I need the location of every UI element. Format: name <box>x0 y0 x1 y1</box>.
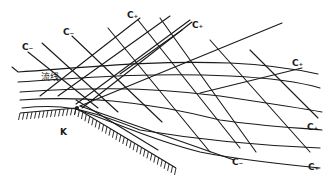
hatch-mark <box>23 113 25 120</box>
c-minus-line <box>210 40 310 152</box>
label-corner-k: K <box>60 127 68 137</box>
label-c-plus: C₊ <box>292 58 304 68</box>
hatch-mark <box>39 111 41 118</box>
hatch-mark <box>143 149 145 156</box>
c-plus-line <box>40 18 140 96</box>
wall-hatching <box>19 108 177 175</box>
c-minus-line <box>72 36 162 122</box>
c-minus-line <box>28 52 98 108</box>
c-plus-line <box>200 68 302 93</box>
hatch-mark <box>119 135 121 142</box>
label-c-plus: C₊ <box>308 162 320 172</box>
streamline-2 <box>18 75 320 88</box>
label-c-plus: C₊ <box>192 20 204 30</box>
hatch-mark <box>81 112 83 119</box>
hatch-mark <box>109 129 111 136</box>
c-minus-line <box>160 18 256 152</box>
c-minus-line <box>80 106 234 160</box>
characteristics-diagram: C₋ C₋ C₊ C₊ C₊ C₊ C₊ C₋ 流线 K <box>0 0 330 180</box>
hatch-mark <box>175 168 177 175</box>
hatch-mark <box>164 162 166 169</box>
label-c-minus: C₋ <box>232 157 244 167</box>
hatch-mark <box>147 151 149 158</box>
label-c-plus: C₊ <box>127 10 139 20</box>
hatch-mark <box>51 110 53 117</box>
c-minus-line <box>138 20 240 148</box>
hatch-mark <box>31 112 33 119</box>
c-minus-line <box>250 50 318 118</box>
hatch-mark <box>88 116 90 123</box>
hatch-mark <box>19 113 21 120</box>
hatch-mark <box>157 158 159 165</box>
hatch-mark <box>106 127 108 134</box>
hatch-mark <box>59 109 61 116</box>
hatch-mark <box>150 154 152 161</box>
c-plus-line <box>58 16 170 96</box>
label-c-minus: C₋ <box>63 27 75 37</box>
hatch-mark <box>27 112 29 119</box>
hatch-mark <box>133 143 135 150</box>
hatch-mark <box>95 120 97 127</box>
label-streamline: 流线 <box>41 71 59 82</box>
hatch-mark <box>85 114 87 121</box>
hatch-mark <box>55 110 57 117</box>
hatch-mark <box>140 147 142 154</box>
hatch-mark <box>102 125 104 132</box>
corner-point <box>75 106 79 110</box>
hatch-mark <box>99 122 101 129</box>
hatch-mark <box>161 160 163 167</box>
hatch-mark <box>47 111 49 118</box>
hatch-mark <box>35 112 37 119</box>
hatch-mark <box>168 164 170 171</box>
hatch-mark <box>123 137 125 144</box>
hatch-mark <box>43 111 45 118</box>
label-c-minus: C₋ <box>22 42 34 52</box>
hatch-mark <box>126 139 128 146</box>
hatch-mark <box>116 133 118 140</box>
hatch-mark <box>67 109 69 116</box>
wall <box>19 108 177 175</box>
label-c-plus: C₊ <box>307 122 319 132</box>
hatch-mark <box>92 118 94 125</box>
hatch-mark <box>154 156 156 163</box>
hatch-mark <box>137 145 139 152</box>
hatch-mark <box>71 108 73 115</box>
c-minus-line <box>76 100 158 150</box>
hatch-mark <box>130 141 132 148</box>
hatch-mark <box>78 110 80 117</box>
hatch-mark <box>171 166 173 173</box>
hatch-mark <box>112 131 114 138</box>
hatch-mark <box>63 109 65 116</box>
